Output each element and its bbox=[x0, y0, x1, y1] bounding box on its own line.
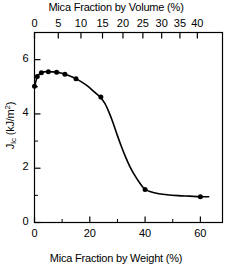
top-axis-ticks bbox=[35, 33, 198, 39]
axis-box bbox=[35, 33, 223, 223]
data-curve bbox=[35, 72, 209, 197]
y-tick-label: 2 bbox=[9, 160, 29, 172]
bottom-tick-label: 20 bbox=[70, 227, 110, 239]
bottom-tick-label: 40 bbox=[125, 227, 165, 239]
bottom-tick-label: 60 bbox=[180, 227, 220, 239]
bottom-axis-ticks bbox=[35, 217, 201, 223]
figure: Mica Fraction by Volume (%) Mica Fractio… bbox=[0, 0, 232, 269]
y-tick-label: 6 bbox=[9, 52, 29, 64]
y-axis-ticks bbox=[35, 33, 41, 223]
bottom-tick-label: 0 bbox=[15, 227, 55, 239]
y-tick-label: 0 bbox=[9, 215, 29, 227]
top-tick-label: 40 bbox=[177, 17, 217, 29]
y-tick-label: 4 bbox=[9, 106, 29, 118]
